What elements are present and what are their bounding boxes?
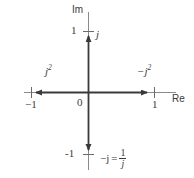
origin-label: 0 — [77, 97, 83, 108]
imaginary-axis-label: Im — [72, 5, 83, 15]
annotation-up-j: j — [96, 29, 99, 40]
annotation-down-equals: = — [109, 152, 119, 164]
annotation-down-fraction: 1j — [119, 148, 126, 169]
annotation-right-minus-j-squared: −j2 — [137, 64, 151, 77]
annotation-right-exponent: 2 — [147, 63, 151, 72]
annotation-down-denominator: j — [119, 158, 126, 169]
tick-label-re-negative-one: −1 — [25, 99, 37, 110]
tick-label-im-positive-one: 1 — [71, 25, 77, 36]
real-axis-label: Re — [172, 94, 185, 104]
tick-label-re-positive-one: 1 — [152, 99, 158, 110]
annotation-down-lhs: −j — [100, 152, 109, 164]
annotation-left-exponent: 2 — [48, 63, 52, 72]
annotation-right-base: −j — [137, 65, 147, 77]
annotation-left-j-squared: j2 — [45, 64, 52, 77]
complex-plane-figure: Im Re 0 1 -1 −1 1 j j2 −j2 −j=1j — [0, 0, 194, 178]
tick-label-im-negative-one: -1 — [65, 148, 74, 159]
annotation-down-numerator: 1 — [119, 148, 126, 158]
annotation-down-minus-j-equals-one-over-j: −j=1j — [100, 149, 126, 170]
axes-svg — [0, 0, 194, 178]
